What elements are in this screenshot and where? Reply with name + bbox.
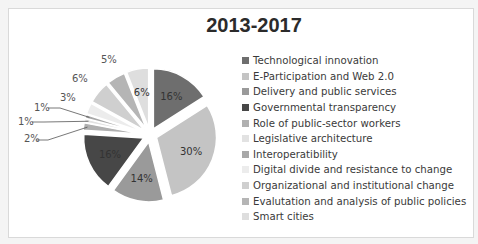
legend-item: Governmental transparency [242,100,466,116]
legend-label: Interoperatibility [253,149,338,160]
leader-line [48,108,90,117]
slice-label: 16% [99,149,121,160]
legend-item: Role of public-sector workers [242,115,466,131]
legend-label: Role of public-sector workers [253,118,400,129]
legend-swatch-icon [242,88,249,95]
slice-outer-label: 6% [72,73,88,84]
legend-label: Technological innovation [253,55,379,66]
slice-label: 14% [131,173,153,184]
slice-outer-label: 3% [60,92,76,103]
slice-outer-label: 5% [101,54,117,65]
legend-label: Organizational and institutional change [253,180,454,191]
leader-line [36,127,87,140]
slice-label: 16% [160,91,182,102]
legend-swatch-icon [242,166,249,173]
slice-label: 30% [180,146,202,157]
leader-line [32,121,89,122]
legend-swatch-icon [242,104,249,111]
legend-swatch-icon [242,213,249,220]
legend-swatch-icon [242,120,249,127]
legend-label: Evalutation and analysis of public polic… [253,196,466,207]
legend-swatch-icon [242,135,249,142]
legend-item: Organizational and institutional change [242,178,466,194]
legend-swatch-icon [242,57,249,64]
slice-outer-label: 1% [34,102,50,113]
legend-item: Evalutation and analysis of public polic… [242,193,466,209]
legend-item: Technological innovation [242,53,466,69]
legend-item: Legislative architecture [242,131,466,147]
legend-item: Digital divide and resistance to change [242,162,466,178]
slice-label: 6% [134,87,150,98]
legend-label: Smart cities [253,211,314,222]
chart-legend: Technological innovationE-Participation … [242,53,466,225]
legend-swatch-icon [242,151,249,158]
legend-item: Smart cities [242,209,466,225]
legend-label: Digital divide and resistance to change [253,164,452,175]
legend-item: Interoperatibility [242,147,466,163]
legend-item: E-Participation and Web 2.0 [242,69,466,85]
slice-outer-label: 1% [18,116,34,127]
legend-item: Delivery and public services [242,84,466,100]
slice-outer-label: 2% [24,133,40,144]
legend-swatch-icon [242,73,249,80]
legend-label: Legislative architecture [253,133,372,144]
legend-swatch-icon [242,198,249,205]
legend-label: Governmental transparency [253,102,396,113]
legend-swatch-icon [242,182,249,189]
legend-label: E-Participation and Web 2.0 [253,71,394,82]
legend-label: Delivery and public services [253,86,397,97]
